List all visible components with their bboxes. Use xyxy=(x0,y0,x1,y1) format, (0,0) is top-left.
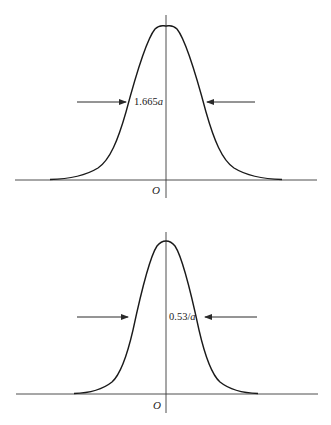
diagram-canvas xyxy=(0,0,331,425)
top-panel xyxy=(15,15,317,198)
top-width-label: 1.665a xyxy=(134,97,163,108)
top-origin-label: O xyxy=(152,185,160,196)
top-width-variable: a xyxy=(158,96,163,107)
bottom-width-number: 0.53/ xyxy=(169,311,190,322)
bottom-panel xyxy=(16,232,318,413)
top-width-number: 1.665 xyxy=(134,96,158,107)
bottom-width-variable: a xyxy=(190,311,195,322)
bottom-width-label: 0.53/a xyxy=(169,312,196,323)
gaussian-figure: 1.665a O 0.53/a O xyxy=(0,0,331,425)
bottom-origin-label: O xyxy=(153,400,161,411)
